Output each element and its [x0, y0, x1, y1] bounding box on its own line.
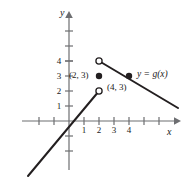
- x-axis-name: x: [167, 127, 171, 137]
- x-tick-label-4: 4: [124, 126, 134, 135]
- filled-point-4-3: [126, 73, 132, 79]
- y-tick-label-4: 4: [54, 57, 64, 66]
- coordinate-plane-svg: [0, 0, 189, 184]
- y-tick-label-3: 3: [54, 72, 64, 81]
- y-axis-arrowhead: [65, 11, 73, 18]
- open-point-2-2: [96, 88, 102, 94]
- open-point-2-4: [96, 58, 102, 64]
- x-tick-label-3: 3: [109, 126, 119, 135]
- point-label-4-3: (4, 3): [107, 83, 127, 92]
- point-label-2-3: (2, 3): [69, 71, 89, 80]
- y-axis-name: y: [60, 8, 64, 18]
- y-tick-label-2: 2: [54, 87, 64, 96]
- x-axis-arrowhead: [174, 117, 181, 125]
- x-tick-label-2: 2: [94, 126, 104, 135]
- graph-figure: y x 1 2 3 4 4 3 2 1 (2, 3) (4, 3) y = g(…: [0, 0, 189, 184]
- filled-point-2-3: [96, 73, 102, 79]
- y-tick-label-1: 1: [54, 102, 64, 111]
- function-label: y = g(x): [137, 70, 168, 80]
- x-tick-label-1: 1: [79, 126, 89, 135]
